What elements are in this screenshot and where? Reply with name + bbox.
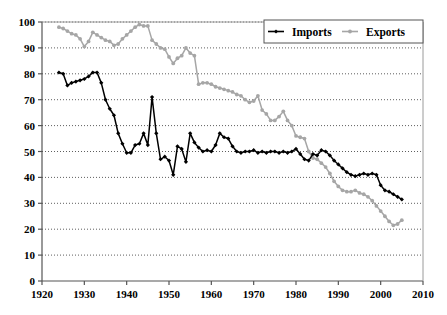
y-tick-label: 50 bbox=[24, 146, 36, 158]
data-point-marker bbox=[74, 33, 78, 37]
data-point-marker bbox=[112, 43, 116, 47]
x-tick-label: 1960 bbox=[200, 288, 223, 300]
data-point-marker bbox=[328, 172, 332, 176]
x-tick-label: 2000 bbox=[370, 288, 393, 300]
data-point-marker bbox=[248, 100, 252, 104]
x-tick-label: 1950 bbox=[158, 288, 181, 300]
data-point-marker bbox=[320, 161, 324, 165]
data-point-marker bbox=[137, 23, 141, 27]
data-point-marker bbox=[231, 90, 235, 94]
data-point-marker bbox=[273, 119, 277, 123]
y-tick-label: 20 bbox=[24, 223, 36, 235]
data-point-marker bbox=[129, 29, 133, 33]
data-point-marker bbox=[256, 94, 260, 98]
data-point-marker bbox=[226, 89, 230, 93]
y-tick-label: 60 bbox=[24, 120, 36, 132]
x-tick-label: 1970 bbox=[243, 288, 266, 300]
y-tick-label: 100 bbox=[19, 16, 36, 28]
data-point-marker bbox=[290, 124, 294, 128]
data-point-marker bbox=[345, 190, 349, 194]
data-point-marker bbox=[252, 99, 256, 103]
y-tick-label: 0 bbox=[30, 275, 36, 287]
data-point-marker bbox=[349, 190, 353, 194]
data-point-marker bbox=[171, 62, 175, 66]
data-point-marker bbox=[324, 165, 328, 169]
y-tick-label: 70 bbox=[24, 94, 36, 106]
data-point-marker bbox=[277, 115, 281, 119]
y-tick-label: 30 bbox=[24, 197, 36, 209]
data-point-marker bbox=[366, 195, 370, 199]
data-point-marker bbox=[383, 214, 387, 218]
data-point-marker bbox=[379, 209, 383, 213]
data-point-marker bbox=[332, 179, 336, 183]
data-point-marker bbox=[387, 220, 391, 224]
data-point-marker bbox=[99, 36, 103, 40]
data-point-marker bbox=[116, 42, 120, 46]
legend-label-exports: Exports bbox=[366, 26, 406, 39]
data-point-marker bbox=[108, 40, 112, 44]
data-point-marker bbox=[150, 38, 154, 42]
chart-legend: ImportsExports bbox=[264, 20, 423, 43]
data-point-marker bbox=[180, 54, 184, 58]
data-point-marker bbox=[239, 94, 243, 98]
data-point-marker bbox=[214, 85, 218, 89]
y-tick-label: 80 bbox=[24, 68, 36, 80]
y-tick-label: 40 bbox=[24, 171, 36, 183]
data-point-marker bbox=[370, 199, 374, 203]
x-tick-label: 1940 bbox=[116, 288, 139, 300]
data-point-marker bbox=[358, 191, 362, 195]
data-point-marker bbox=[95, 33, 99, 37]
data-point-marker bbox=[222, 87, 226, 91]
data-point-marker bbox=[307, 150, 311, 154]
data-point-marker bbox=[121, 37, 125, 41]
data-point-marker bbox=[159, 46, 163, 50]
legend-label-imports: Imports bbox=[292, 26, 332, 39]
data-point-marker bbox=[391, 223, 395, 227]
y-tick-label: 10 bbox=[24, 249, 36, 261]
data-point-marker bbox=[104, 38, 108, 42]
data-point-marker bbox=[315, 157, 319, 161]
x-tick-label: 1920 bbox=[31, 288, 54, 300]
data-point-marker bbox=[57, 25, 61, 29]
chart-container: ImportsExports 1009080706050403020100 19… bbox=[0, 0, 447, 315]
data-point-marker bbox=[78, 37, 82, 41]
data-point-marker bbox=[294, 134, 298, 138]
x-tick-label: 1980 bbox=[285, 288, 308, 300]
data-point-marker bbox=[146, 24, 150, 28]
data-point-marker bbox=[281, 109, 285, 113]
data-point-marker bbox=[348, 30, 352, 34]
data-point-marker bbox=[193, 54, 197, 58]
y-tick-label: 90 bbox=[24, 42, 36, 54]
data-point-marker bbox=[336, 185, 340, 189]
x-tick-label: 1930 bbox=[73, 288, 96, 300]
data-point-marker bbox=[91, 30, 95, 34]
line-chart: ImportsExports 1009080706050403020100 19… bbox=[0, 0, 447, 315]
data-point-marker bbox=[184, 46, 188, 50]
data-point-marker bbox=[353, 188, 357, 192]
data-point-marker bbox=[362, 192, 366, 196]
data-point-marker bbox=[303, 137, 307, 141]
data-point-marker bbox=[243, 98, 247, 102]
data-point-marker bbox=[154, 42, 158, 46]
data-point-marker bbox=[235, 93, 239, 97]
data-point-marker bbox=[163, 47, 167, 51]
data-point-marker bbox=[260, 108, 264, 112]
data-point-marker bbox=[205, 81, 209, 85]
data-point-marker bbox=[264, 112, 268, 116]
data-point-marker bbox=[218, 86, 222, 90]
data-point-marker bbox=[82, 45, 86, 49]
data-point-marker bbox=[197, 82, 201, 86]
data-point-marker bbox=[87, 40, 91, 44]
data-point-marker bbox=[66, 29, 70, 33]
data-point-marker bbox=[201, 81, 205, 85]
data-point-marker bbox=[396, 222, 400, 226]
data-point-marker bbox=[176, 56, 180, 60]
data-point-marker bbox=[269, 119, 273, 123]
data-point-marker bbox=[167, 55, 171, 59]
x-tick-label: 2010 bbox=[412, 288, 435, 300]
data-point-marker bbox=[125, 33, 129, 37]
data-point-marker bbox=[341, 188, 345, 192]
data-point-marker bbox=[375, 204, 379, 208]
data-point-marker bbox=[142, 24, 146, 28]
data-point-marker bbox=[133, 25, 137, 29]
